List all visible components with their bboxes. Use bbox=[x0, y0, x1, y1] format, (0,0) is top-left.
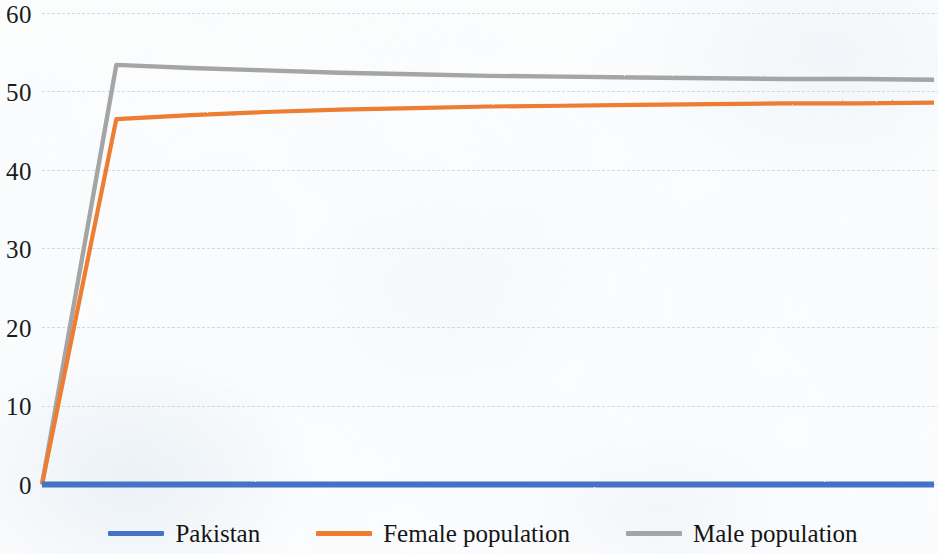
legend-item-male-population[interactable]: Male population bbox=[626, 521, 858, 546]
legend-swatch-female-population bbox=[316, 531, 372, 536]
legend-item-pakistan[interactable]: Pakistan bbox=[108, 521, 260, 546]
legend-item-female-population[interactable]: Female population bbox=[316, 521, 570, 546]
legend-swatch-male-population bbox=[626, 531, 682, 536]
line-chart: 60 50 40 30 20 10 0 Pakistan Female popu… bbox=[0, 0, 938, 554]
legend-label-male-population: Male population bbox=[693, 521, 858, 546]
series-line-male-population bbox=[42, 65, 934, 485]
legend-label-female-population: Female population bbox=[383, 521, 570, 546]
plot-area bbox=[0, 0, 938, 554]
series-line-female-population bbox=[42, 103, 934, 485]
chart-legend: Pakistan Female population Male populati… bbox=[0, 512, 938, 554]
legend-swatch-pakistan bbox=[108, 531, 164, 536]
legend-label-pakistan: Pakistan bbox=[175, 521, 260, 546]
